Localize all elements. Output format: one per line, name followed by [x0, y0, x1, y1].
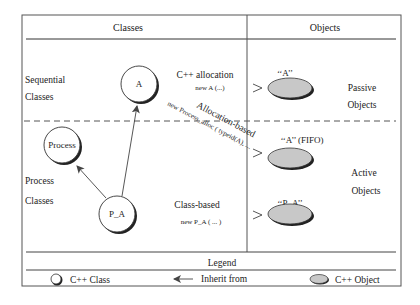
inherit-arrow-pa-to-process [77, 166, 106, 198]
row-label-passive: Passive [348, 83, 377, 93]
pointer-icon-obj-a [253, 84, 262, 92]
legend-object-icon [310, 275, 329, 285]
class-circle-process: Process [44, 127, 82, 165]
legend-inherit-label: Inherit from [201, 274, 248, 284]
header-classes: Classes [113, 22, 143, 33]
svg-text:‘‘A’’ (FIFO): ‘‘A’’ (FIFO) [280, 135, 323, 145]
svg-text:Process: Process [48, 140, 76, 150]
class-circle-a: A [121, 66, 159, 104]
pointer-icon-obj-a-fifo [253, 149, 262, 157]
object-ellipse-p-a: ‘‘P_A’’ [268, 198, 314, 226]
legend-class-icon [51, 274, 63, 286]
class-circle-p-a: P_A [99, 196, 137, 234]
svg-text:‘‘A’’: ‘‘A’’ [277, 68, 293, 78]
inherit-arrow-pa-to-a [122, 106, 137, 196]
row-label-sequential-2: Classes [25, 92, 54, 102]
legend-object-label: C++ Object [335, 275, 380, 285]
legend-title: Legend [208, 258, 237, 268]
row-label-process-2: Classes [25, 196, 54, 206]
class-based-title: Class-based [174, 200, 220, 210]
cpp-allocation-title: C++ allocation [177, 70, 234, 80]
svg-text:P_A: P_A [109, 209, 126, 219]
class-based-code: new P_A ( ... ) [181, 218, 222, 226]
svg-text:A: A [136, 79, 143, 89]
class-object-diagram: Classes Objects Sequential Classes Proce… [0, 0, 420, 305]
row-label-process: Process [25, 176, 54, 186]
object-ellipse-a: ‘‘A’’ [268, 68, 314, 100]
row-label-sequential: Sequential [25, 75, 65, 85]
row-label-active: Active [351, 168, 376, 178]
legend-class-label: C++ Class [70, 275, 110, 285]
header-objects: Objects [310, 22, 341, 33]
row-label-passive-2: Objects [347, 100, 376, 110]
cpp-allocation-code: new A (...) [195, 84, 225, 92]
object-ellipse-a-fifo: ‘‘A’’ (FIFO) [268, 135, 324, 170]
row-label-active-2: Objects [351, 186, 380, 196]
pointer-icon-obj-p-a [253, 211, 262, 219]
